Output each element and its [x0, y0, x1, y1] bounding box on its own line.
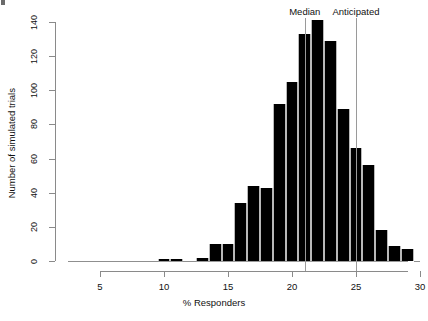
y-axis-tick: [49, 227, 55, 228]
y-axis-title: Number of simulated trials: [6, 88, 17, 198]
reference-label-anticipated: Anticipated: [332, 6, 379, 17]
histogram-bar: [145, 261, 158, 262]
histogram-bar: [375, 230, 388, 261]
reference-line-anticipated: [356, 18, 357, 271]
y-axis-tick: [49, 261, 55, 262]
x-axis-tick-label: 5: [97, 281, 102, 292]
histogram-bar: [196, 258, 209, 261]
y-axis-tick-label: 140: [30, 11, 46, 33]
reference-line-median: [305, 18, 306, 271]
x-axis-title: % Responders: [0, 297, 428, 308]
y-axis-tick-label: 80: [30, 113, 46, 135]
histogram-bar: [286, 82, 299, 261]
histogram-bar: [158, 259, 171, 261]
y-axis-tick-label: 20: [30, 216, 46, 238]
histogram-bar: [106, 261, 119, 262]
y-axis-tick: [49, 22, 55, 23]
x-axis-tick: [164, 271, 165, 277]
histogram-bar: [273, 104, 286, 261]
histogram-bar: [209, 244, 222, 261]
x-axis-tick: [420, 271, 421, 277]
y-axis-tick-label: 40: [30, 182, 46, 204]
histogram-bar: [132, 261, 145, 262]
histogram-bar: [234, 203, 247, 261]
x-axis-tick-label: 15: [223, 281, 234, 292]
histogram-bar: [362, 165, 375, 261]
y-axis-tick-label: 100: [30, 79, 46, 101]
histogram-bar: [81, 261, 94, 262]
y-axis-line: [55, 22, 56, 261]
histogram-bar: [183, 261, 196, 262]
histogram-bar: [260, 188, 273, 261]
y-axis-tick-label: 120: [30, 45, 46, 67]
x-axis-tick-label: 20: [287, 281, 298, 292]
histogram-bar: [401, 249, 414, 261]
x-axis-line: [100, 271, 408, 272]
x-axis-tick: [228, 271, 229, 277]
x-axis-tick: [356, 271, 357, 277]
histogram-bar: [119, 261, 132, 262]
x-axis-tick-label: 30: [415, 281, 426, 292]
reference-label-median: Median: [289, 6, 320, 17]
y-axis-tick: [49, 193, 55, 194]
x-axis-tick: [100, 271, 101, 277]
x-axis-tick-label: 10: [159, 281, 170, 292]
y-axis-tick: [49, 90, 55, 91]
histogram-bar: [247, 186, 260, 261]
histogram-bar: [388, 246, 401, 261]
histogram-chart: 020406080100120140 51015202530 MedianAnt…: [0, 0, 428, 321]
x-axis-tick-label: 25: [351, 281, 362, 292]
y-axis-tick-label: 60: [30, 148, 46, 170]
histogram-bar: [337, 109, 350, 261]
x-axis-tick: [292, 271, 293, 277]
histogram-bar: [170, 259, 183, 261]
histogram-bar: [311, 20, 324, 261]
y-axis-tick: [49, 124, 55, 125]
histogram-bar: [94, 261, 107, 262]
y-axis-tick: [49, 56, 55, 57]
y-axis-tick-label: 0: [30, 250, 46, 272]
plot-area: 020406080100120140 51015202530 MedianAnt…: [0, 0, 428, 321]
histogram-bar: [324, 41, 337, 261]
histogram-bar: [222, 244, 235, 261]
histogram-bar: [68, 261, 81, 262]
y-axis-tick: [49, 159, 55, 160]
histogram-bar: [414, 261, 420, 262]
